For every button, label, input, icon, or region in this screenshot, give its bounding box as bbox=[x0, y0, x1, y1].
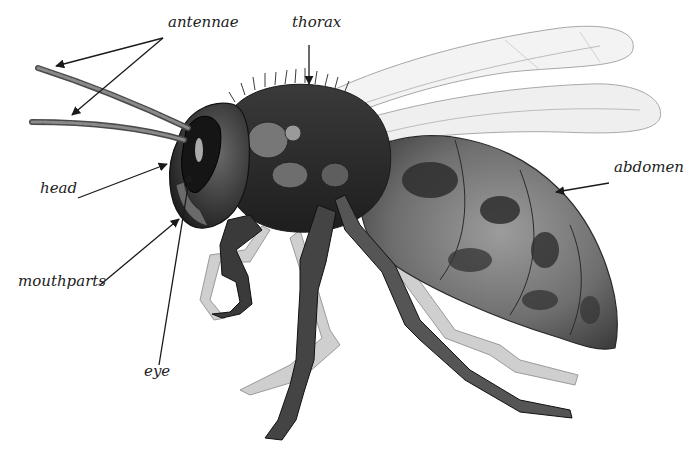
label-head: head bbox=[40, 181, 77, 196]
label-thorax: thorax bbox=[292, 15, 341, 30]
arrow-eye bbox=[159, 174, 190, 365]
arrow-mouthparts bbox=[100, 219, 179, 285]
arrow-head bbox=[78, 164, 167, 198]
label-abdomen: abdomen bbox=[614, 160, 684, 175]
label-mouthparts: mouthparts bbox=[18, 274, 106, 289]
label-eye: eye bbox=[144, 364, 170, 379]
wasp-anatomy-diagram: antennae thorax head abdomen mouthparts … bbox=[0, 0, 698, 469]
label-antennae: antennae bbox=[168, 15, 239, 30]
arrow-abdomen bbox=[556, 183, 609, 192]
annotation-arrows bbox=[0, 0, 698, 469]
